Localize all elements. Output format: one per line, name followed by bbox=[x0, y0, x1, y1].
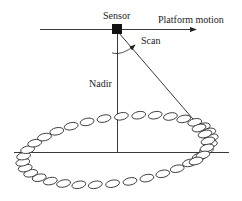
sensor-label: Sensor bbox=[103, 11, 130, 21]
conical-scan-diagram: Sensor Platform motion Scan Nadir bbox=[0, 0, 242, 201]
footprint-ellipses bbox=[15, 110, 219, 190]
diagram-graphics bbox=[0, 0, 242, 201]
scan-label: Scan bbox=[141, 36, 160, 46]
nadir-label: Nadir bbox=[89, 79, 112, 89]
scan-angle-arc bbox=[112, 45, 135, 54]
sensor-icon bbox=[112, 24, 122, 34]
platform-motion-label: Platform motion bbox=[158, 15, 224, 25]
scan-line bbox=[119, 33, 205, 133]
